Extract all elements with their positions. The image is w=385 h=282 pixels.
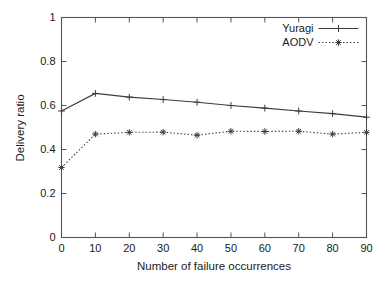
x-tick-label: 10 bbox=[80, 243, 110, 254]
chart-figure: 00.20.40.60.81 0102030405060708090 Deliv… bbox=[0, 0, 385, 282]
y-tick-label: 0 bbox=[49, 232, 55, 243]
x-tick-label: 20 bbox=[114, 243, 144, 254]
x-axis-title: Number of failure occurrences bbox=[62, 260, 367, 272]
tick-marks bbox=[62, 18, 367, 238]
x-tick-label: 70 bbox=[284, 243, 314, 254]
y-tick-label: 0.2 bbox=[40, 188, 55, 199]
x-tick-label: 80 bbox=[318, 243, 348, 254]
x-tick-label: 0 bbox=[47, 243, 77, 254]
y-axis-title: Delivery ratio bbox=[14, 94, 26, 161]
x-tick-label: 30 bbox=[148, 243, 178, 254]
plot-canvas bbox=[0, 0, 385, 282]
y-tick-label: 0.4 bbox=[40, 144, 55, 155]
axes-frame bbox=[62, 18, 367, 238]
y-tick-label: 0.8 bbox=[40, 56, 55, 67]
x-tick-label: 50 bbox=[216, 243, 246, 254]
x-tick-label: 90 bbox=[352, 243, 382, 254]
legend-item-yuragi: Yuragi bbox=[282, 23, 313, 34]
legend-samples bbox=[319, 25, 359, 46]
y-tick-label: 1 bbox=[49, 12, 55, 23]
legend-item-aodv: AODV bbox=[282, 37, 313, 48]
x-tick-label: 40 bbox=[182, 243, 212, 254]
y-tick-label: 0.6 bbox=[40, 100, 55, 111]
x-tick-label: 60 bbox=[250, 243, 280, 254]
data-series-group bbox=[58, 90, 370, 171]
